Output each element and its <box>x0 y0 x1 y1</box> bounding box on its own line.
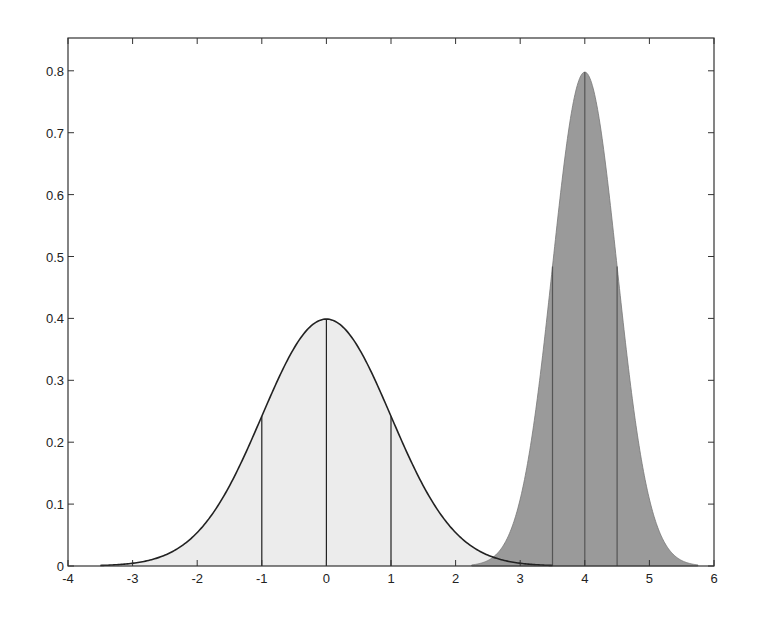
x-tick-label: 4 <box>581 571 588 586</box>
y-tick-label: 0.6 <box>46 188 64 203</box>
y-tick-label: 0.3 <box>46 373 64 388</box>
y-tick-label: 0.7 <box>46 126 64 141</box>
x-tick-label: 5 <box>646 571 653 586</box>
x-tick-label: 2 <box>452 571 459 586</box>
y-tick-label: 0.8 <box>46 64 64 79</box>
y-tick-label: 0 <box>57 559 64 574</box>
x-tick-label: 0 <box>323 571 330 586</box>
y-tick-label: 0.4 <box>46 311 64 326</box>
y-tick-label: 0.1 <box>46 497 64 512</box>
x-tick-label: 3 <box>517 571 524 586</box>
y-tick-label: 0.5 <box>46 250 64 265</box>
x-tick-label: -2 <box>191 571 203 586</box>
x-tick-label: 1 <box>387 571 394 586</box>
x-tick-label: -1 <box>256 571 268 586</box>
x-tick-label: -3 <box>127 571 139 586</box>
chart: -4-3-2-10123456 00.10.20.30.40.50.60.70.… <box>0 0 758 621</box>
y-tick-label: 0.2 <box>46 435 64 450</box>
distribution-fills <box>100 72 698 566</box>
x-tick-label: 6 <box>710 571 717 586</box>
